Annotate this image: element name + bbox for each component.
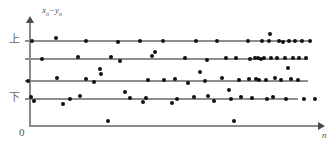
- data-point: [232, 119, 236, 123]
- data-point: [215, 39, 219, 43]
- data-point: [281, 40, 285, 44]
- data-point: [123, 90, 127, 94]
- data-point: [32, 99, 36, 103]
- lower-limit-label: 下: [9, 92, 20, 103]
- data-point: [61, 102, 65, 106]
- data-point: [198, 70, 202, 74]
- data-point: [84, 39, 88, 43]
- data-point: [98, 67, 102, 71]
- reference-line-upper-mid: [30, 58, 308, 60]
- data-point: [106, 119, 110, 123]
- x-axis-line: [29, 125, 321, 127]
- data-point: [175, 97, 179, 101]
- data-point: [170, 101, 174, 105]
- data-point: [116, 40, 120, 44]
- data-point: [194, 39, 198, 43]
- origin-label: 0: [19, 127, 25, 138]
- data-point: [302, 97, 306, 101]
- data-point: [313, 97, 317, 101]
- data-point: [212, 99, 216, 103]
- data-point: [92, 80, 96, 84]
- data-point: [308, 39, 312, 43]
- y-axis-label: xn−yn: [42, 6, 62, 17]
- data-point: [40, 57, 44, 61]
- data-point: [205, 58, 209, 62]
- data-point: [248, 57, 252, 61]
- scatter-plot-figure: xn−yn n 0 上 下: [0, 0, 334, 148]
- y-axis-line: [29, 22, 31, 126]
- data-point: [161, 39, 165, 43]
- data-point: [286, 66, 290, 70]
- data-point: [68, 97, 72, 101]
- x-axis-label: n: [322, 131, 327, 140]
- data-point: [186, 81, 190, 85]
- data-point: [203, 79, 207, 83]
- data-point: [153, 50, 157, 54]
- data-point: [265, 97, 269, 101]
- data-point: [293, 39, 297, 43]
- data-point: [141, 100, 145, 104]
- data-point: [30, 39, 34, 43]
- y-axis-label-sub2: n: [59, 11, 62, 17]
- upper-limit-label: 上: [9, 34, 20, 45]
- data-point: [300, 39, 304, 43]
- data-point: [267, 39, 271, 43]
- data-point: [287, 39, 291, 43]
- data-point: [246, 39, 250, 43]
- data-point: [138, 39, 142, 43]
- data-point: [284, 97, 288, 101]
- y-axis-arrowhead: [26, 16, 34, 23]
- data-point: [118, 59, 122, 63]
- data-point: [268, 32, 272, 36]
- data-point: [99, 72, 103, 76]
- data-point: [227, 88, 231, 92]
- data-point: [260, 39, 264, 43]
- x-axis-arrowhead: [318, 122, 325, 130]
- data-point: [229, 97, 233, 101]
